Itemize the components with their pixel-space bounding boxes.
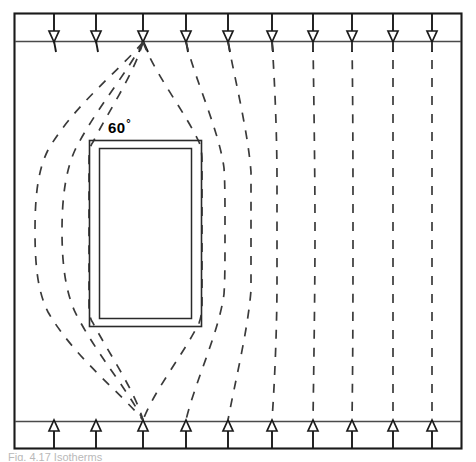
flux-arrow-up-icon — [308, 420, 318, 448]
isotherm-contour-4 — [143, 42, 202, 420]
domain-outer-rect — [15, 14, 462, 449]
isotherm-contour-6 — [228, 42, 251, 420]
flux-arrow-up-icon — [138, 420, 148, 448]
flux-arrow-up-icon — [267, 420, 277, 448]
isotherm-contour-9 — [352, 42, 353, 420]
bottom-flux-arrows — [49, 420, 437, 448]
flux-arrow-up-icon — [388, 420, 398, 448]
isotherm-contour-7 — [272, 42, 277, 420]
isotherm-contour-2 — [62, 42, 143, 420]
flux-arrow-up-icon — [91, 420, 101, 448]
isotherm-contour-8 — [313, 42, 315, 420]
degree-symbol: ° — [126, 117, 131, 129]
flux-arrow-down-icon — [91, 14, 101, 52]
flux-arrow-up-icon — [49, 420, 59, 448]
duct-inner-rect — [100, 149, 192, 319]
caption-fragment: Fig. 4.17 Isotherms — [8, 452, 308, 461]
isotherm-contour-60 — [89, 42, 143, 420]
flux-arrow-up-icon — [181, 420, 191, 448]
top-flux-arrows — [49, 14, 437, 52]
contour-label-value: 60 — [108, 119, 125, 136]
isotherm-contours — [35, 42, 432, 420]
domain-boundary — [15, 14, 462, 449]
flux-arrow-up-icon — [427, 420, 437, 448]
figure-canvas — [0, 0, 476, 462]
duct-inclusion — [90, 141, 202, 327]
isotherm-figure: 60° Fig. 4.17 Isotherms — [0, 0, 476, 462]
flux-arrow-down-icon — [49, 14, 59, 52]
contour-label-60: 60° — [108, 118, 131, 135]
flux-arrow-up-icon — [347, 420, 357, 448]
duct-outer-rect — [90, 141, 202, 327]
flux-arrow-up-icon — [223, 420, 233, 448]
flux-arrow-down-icon — [181, 14, 191, 52]
